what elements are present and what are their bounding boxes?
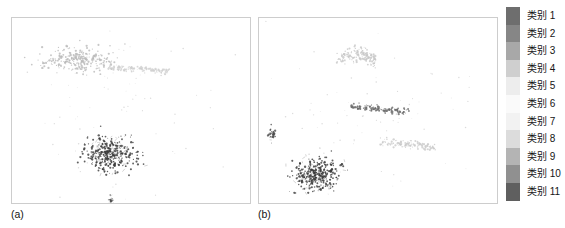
colorbar bbox=[506, 7, 520, 201]
colorbar-swatch bbox=[506, 165, 520, 183]
colorbar-swatch bbox=[506, 77, 520, 95]
panel-caption-a: (a) bbox=[11, 208, 24, 220]
scatter-cluster bbox=[75, 125, 148, 176]
panel-caption-b: (b) bbox=[258, 208, 271, 220]
scatter-cluster bbox=[267, 124, 276, 144]
legend-item-label: 类别 5 bbox=[527, 77, 561, 95]
scatter-cluster bbox=[350, 102, 410, 115]
colorbar-swatch bbox=[506, 42, 520, 60]
scatter-cluster bbox=[108, 194, 114, 203]
colorbar-swatch bbox=[506, 130, 520, 148]
scatter-panel-b bbox=[258, 17, 498, 204]
scatter-cluster bbox=[107, 64, 170, 76]
legend-item-label: 类别 1 bbox=[527, 7, 561, 25]
colorbar-swatch bbox=[506, 95, 520, 113]
colorbar-swatch bbox=[506, 7, 520, 25]
scatter-cluster bbox=[336, 44, 377, 68]
legend-item-label: 类别 8 bbox=[527, 130, 561, 148]
legend-item-label: 类别 6 bbox=[527, 95, 561, 113]
scatter-plot-b bbox=[259, 18, 497, 203]
scatter-cluster bbox=[379, 137, 436, 151]
legend-item-label: 类别 11 bbox=[527, 183, 561, 201]
legend-item-label: 类别 7 bbox=[527, 113, 561, 131]
colorbar-swatch bbox=[506, 183, 520, 201]
scatter-cluster bbox=[27, 30, 236, 199]
legend-item-label: 类别 9 bbox=[527, 148, 561, 166]
colorbar-swatch bbox=[506, 60, 520, 78]
colorbar-swatch bbox=[506, 148, 520, 166]
legend-item-label: 类别 3 bbox=[527, 42, 561, 60]
scatter-plot-a bbox=[12, 18, 250, 203]
figure-container: (a) (b) 类别 1类别 2类别 3类别 4类别 5类别 6类别 7类别 8… bbox=[0, 0, 565, 228]
colorbar-swatch bbox=[506, 113, 520, 131]
scatter-panel-a bbox=[11, 17, 251, 204]
scatter-cluster bbox=[24, 40, 126, 79]
scatter-cluster bbox=[265, 21, 470, 187]
legend-item-label: 类别 2 bbox=[527, 25, 561, 43]
scatter-cluster bbox=[286, 148, 348, 195]
legend-item-label: 类别 10 bbox=[527, 165, 561, 183]
legend-label-list: 类别 1类别 2类别 3类别 4类别 5类别 6类别 7类别 8类别 9类别 1… bbox=[527, 7, 561, 201]
legend-item-label: 类别 4 bbox=[527, 60, 561, 78]
colorbar-swatch bbox=[506, 25, 520, 43]
legend: 类别 1类别 2类别 3类别 4类别 5类别 6类别 7类别 8类别 9类别 1… bbox=[506, 7, 561, 201]
